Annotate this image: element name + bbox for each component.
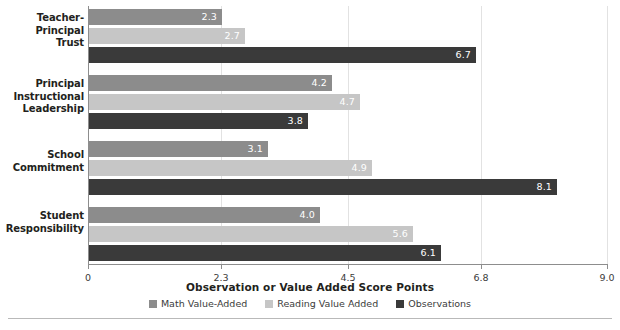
bar-math-value-added[interactable]: 4.0 — [89, 207, 320, 223]
bar-value-label: 5.6 — [393, 226, 408, 242]
legend-swatch-icon — [396, 300, 404, 308]
plot-area: 2.3 2.7 6.7 4.2 — [88, 6, 608, 264]
category-label-line: Student — [0, 210, 84, 223]
legend-item-reading-value-added[interactable]: Reading Value Added — [265, 298, 378, 309]
category-label-line: Principal — [0, 78, 84, 91]
bar-math-value-added[interactable]: 2.3 — [89, 9, 222, 25]
bar-value-label: 8.1 — [537, 179, 552, 195]
category-label-line: Instructional — [0, 91, 84, 104]
chart-legend: Math Value-Added Reading Value Added Obs… — [0, 298, 620, 309]
legend-item-observations[interactable]: Observations — [396, 298, 471, 309]
bar-observations[interactable]: 3.8 — [89, 113, 308, 129]
bar-value-label: 4.7 — [340, 94, 355, 110]
bar-reading-value-added[interactable]: 4.7 — [89, 94, 360, 110]
gridline-6-8 — [481, 6, 482, 264]
bar-value-label: 2.7 — [225, 28, 240, 44]
bar-math-value-added[interactable]: 3.1 — [89, 141, 268, 157]
bar-value-label: 6.7 — [456, 47, 471, 63]
bar-math-value-added[interactable]: 4.2 — [89, 75, 332, 91]
category-label-student-responsibility: Student Responsibility — [0, 210, 84, 235]
bar-value-label: 6.1 — [421, 245, 436, 261]
bar-value-label: 4.0 — [300, 207, 315, 223]
bar-reading-value-added[interactable]: 4.9 — [89, 160, 372, 176]
bar-value-label: 3.1 — [248, 141, 263, 157]
legend-label: Reading Value Added — [277, 298, 378, 309]
category-label-line: Principal — [0, 25, 84, 38]
tick-4-5 — [348, 264, 349, 269]
legend-swatch-icon — [149, 300, 157, 308]
footer-divider — [8, 318, 612, 319]
tick-0 — [88, 264, 89, 269]
category-label-teacher-principal-trust: Teacher- Principal Trust — [0, 12, 84, 50]
bar-value-label: 4.9 — [352, 160, 367, 176]
category-label-principal-instructional-leadership: Principal Instructional Leadership — [0, 78, 84, 116]
category-label-line: Commitment — [0, 162, 84, 175]
bar-chart: Teacher- Principal Trust Principal Instr… — [0, 0, 620, 330]
x-axis-title: Observation or Value Added Score Points — [0, 281, 620, 293]
legend-item-math-value-added[interactable]: Math Value-Added — [149, 298, 247, 309]
bar-observations[interactable]: 6.1 — [89, 245, 441, 261]
gridline-9-0 — [607, 6, 608, 264]
bar-observations[interactable]: 8.1 — [89, 179, 557, 195]
tick-6-8 — [481, 264, 482, 269]
bar-value-label: 3.8 — [288, 113, 303, 129]
legend-label: Observations — [408, 298, 471, 309]
tick-2-3 — [221, 264, 222, 269]
category-label-line: Responsibility — [0, 223, 84, 236]
category-label-line: Trust — [0, 37, 84, 50]
bar-value-label: 4.2 — [312, 75, 327, 91]
legend-swatch-icon — [265, 300, 273, 308]
bar-reading-value-added[interactable]: 5.6 — [89, 226, 413, 242]
category-label-school-commitment: School Commitment — [0, 149, 84, 174]
bar-value-label: 2.3 — [202, 9, 217, 25]
legend-label: Math Value-Added — [161, 298, 247, 309]
bar-observations[interactable]: 6.7 — [89, 47, 476, 63]
bar-reading-value-added[interactable]: 2.7 — [89, 28, 245, 44]
category-label-line: Teacher- — [0, 12, 84, 25]
category-label-line: Leadership — [0, 103, 84, 116]
category-label-line: School — [0, 149, 84, 162]
tick-9-0 — [607, 264, 608, 269]
